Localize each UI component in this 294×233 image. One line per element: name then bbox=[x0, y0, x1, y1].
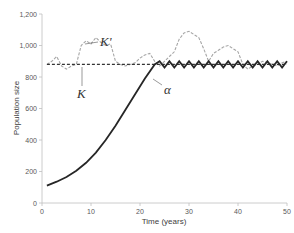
y-tick-label: 200 bbox=[25, 168, 37, 175]
x-tick-label: 40 bbox=[234, 208, 242, 215]
alpha-series-line bbox=[47, 61, 287, 185]
y-axis-ticks: 02004006008001,0001,200 bbox=[19, 11, 42, 207]
y-tick-label: 400 bbox=[25, 137, 37, 144]
x-tick-label: 20 bbox=[136, 208, 144, 215]
x-tick-label: 0 bbox=[40, 208, 44, 215]
x-tick-label: 50 bbox=[283, 208, 291, 215]
k-prime-annotation: K' bbox=[99, 34, 112, 49]
x-axis-label: Time (years) bbox=[142, 217, 187, 226]
y-tick-label: 1,200 bbox=[19, 11, 37, 18]
alpha-annotation: α bbox=[164, 82, 172, 97]
y-axis-label: Population size bbox=[12, 80, 21, 135]
x-axis-ticks: 01020304050 bbox=[40, 203, 291, 215]
y-tick-label: 0 bbox=[33, 200, 37, 207]
x-tick-label: 10 bbox=[87, 208, 95, 215]
k-annotation: K bbox=[76, 86, 87, 101]
population-chart: 02004006008001,0001,200 01020304050 K' K… bbox=[0, 0, 294, 233]
y-tick-label: 800 bbox=[25, 74, 37, 81]
alpha-arrow bbox=[153, 79, 162, 85]
x-tick-label: 30 bbox=[185, 208, 193, 215]
y-tick-label: 600 bbox=[25, 105, 37, 112]
y-tick-label: 1,000 bbox=[19, 42, 37, 49]
